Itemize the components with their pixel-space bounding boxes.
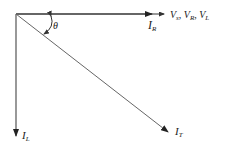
i-r-subscript: R [152, 25, 156, 33]
i-t-vector [16, 14, 168, 132]
phasor-diagram: Vs, VR, VL IR θ IL IT [0, 0, 226, 143]
v-l-subscript: L [205, 14, 209, 22]
i-t-subscript: T [179, 131, 183, 139]
i-l-subscript: L [26, 135, 30, 143]
voltage-labels: Vs, VR, VL [170, 10, 209, 22]
theta-angle-arc [44, 16, 52, 34]
i-l-label: IL [22, 130, 30, 143]
i-t-label: IT [175, 126, 183, 139]
theta-label: θ [53, 21, 58, 31]
i-r-label: IR [148, 19, 156, 33]
